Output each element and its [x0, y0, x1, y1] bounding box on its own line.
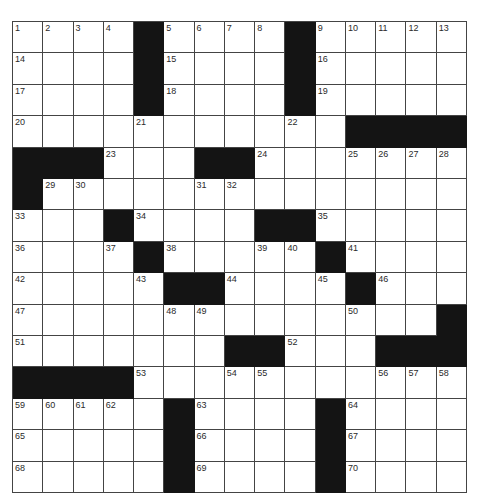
- grid-cell[interactable]: [285, 273, 315, 304]
- grid-cell[interactable]: 26: [376, 148, 406, 179]
- grid-cell[interactable]: [164, 367, 194, 398]
- grid-cell[interactable]: 67: [346, 430, 376, 461]
- grid-cell[interactable]: [104, 85, 134, 116]
- grid-cell[interactable]: 9: [316, 22, 346, 53]
- grid-cell[interactable]: [43, 462, 73, 493]
- grid-cell[interactable]: 56: [376, 367, 406, 398]
- grid-cell[interactable]: [134, 336, 164, 367]
- grid-cell[interactable]: 6: [195, 22, 225, 53]
- grid-cell[interactable]: [74, 116, 104, 147]
- grid-cell[interactable]: 36: [13, 242, 43, 273]
- grid-cell[interactable]: 7: [225, 22, 255, 53]
- grid-cell[interactable]: [406, 53, 436, 84]
- grid-cell[interactable]: [104, 462, 134, 493]
- grid-cell[interactable]: [255, 430, 285, 461]
- grid-cell[interactable]: [225, 462, 255, 493]
- grid-cell[interactable]: 64: [346, 399, 376, 430]
- grid-cell[interactable]: [437, 430, 467, 461]
- grid-cell[interactable]: 5: [164, 22, 194, 53]
- grid-cell[interactable]: 33: [13, 210, 43, 241]
- grid-cell[interactable]: 49: [195, 305, 225, 336]
- grid-cell[interactable]: [195, 242, 225, 273]
- grid-cell[interactable]: 62: [104, 399, 134, 430]
- grid-cell[interactable]: [74, 53, 104, 84]
- grid-cell[interactable]: [164, 179, 194, 210]
- grid-cell[interactable]: [437, 210, 467, 241]
- grid-cell[interactable]: [134, 399, 164, 430]
- grid-cell[interactable]: 8: [255, 22, 285, 53]
- grid-cell[interactable]: [104, 179, 134, 210]
- grid-cell[interactable]: [255, 399, 285, 430]
- grid-cell[interactable]: 28: [437, 148, 467, 179]
- grid-cell[interactable]: [285, 462, 315, 493]
- grid-cell[interactable]: [255, 53, 285, 84]
- grid-cell[interactable]: 50: [346, 305, 376, 336]
- grid-cell[interactable]: 14: [13, 53, 43, 84]
- grid-cell[interactable]: [437, 242, 467, 273]
- grid-cell[interactable]: [134, 148, 164, 179]
- grid-cell[interactable]: 42: [13, 273, 43, 304]
- grid-cell[interactable]: [195, 336, 225, 367]
- grid-cell[interactable]: 2: [43, 22, 73, 53]
- grid-cell[interactable]: [195, 85, 225, 116]
- grid-cell[interactable]: [346, 53, 376, 84]
- grid-cell[interactable]: [316, 116, 346, 147]
- grid-cell[interactable]: [285, 430, 315, 461]
- grid-cell[interactable]: 68: [13, 462, 43, 493]
- grid-cell[interactable]: [406, 242, 436, 273]
- grid-cell[interactable]: [74, 242, 104, 273]
- grid-cell[interactable]: 63: [195, 399, 225, 430]
- grid-cell[interactable]: 43: [134, 273, 164, 304]
- grid-cell[interactable]: 32: [225, 179, 255, 210]
- grid-cell[interactable]: [43, 336, 73, 367]
- grid-cell[interactable]: [437, 462, 467, 493]
- grid-cell[interactable]: [74, 210, 104, 241]
- grid-cell[interactable]: [285, 179, 315, 210]
- grid-cell[interactable]: [376, 305, 406, 336]
- grid-cell[interactable]: [255, 305, 285, 336]
- grid-cell[interactable]: [316, 148, 346, 179]
- grid-cell[interactable]: [225, 305, 255, 336]
- grid-cell[interactable]: [195, 210, 225, 241]
- grid-cell[interactable]: 17: [13, 85, 43, 116]
- grid-cell[interactable]: [164, 336, 194, 367]
- grid-cell[interactable]: [406, 85, 436, 116]
- grid-cell[interactable]: [43, 210, 73, 241]
- grid-cell[interactable]: [406, 462, 436, 493]
- grid-cell[interactable]: 51: [13, 336, 43, 367]
- grid-cell[interactable]: [134, 430, 164, 461]
- grid-cell[interactable]: 60: [43, 399, 73, 430]
- grid-cell[interactable]: [43, 116, 73, 147]
- grid-cell[interactable]: [43, 305, 73, 336]
- grid-cell[interactable]: 1: [13, 22, 43, 53]
- grid-cell[interactable]: [225, 53, 255, 84]
- grid-cell[interactable]: [376, 53, 406, 84]
- grid-cell[interactable]: [104, 53, 134, 84]
- grid-cell[interactable]: [406, 305, 436, 336]
- grid-cell[interactable]: 48: [164, 305, 194, 336]
- grid-cell[interactable]: [195, 53, 225, 84]
- grid-cell[interactable]: [376, 462, 406, 493]
- grid-cell[interactable]: 47: [13, 305, 43, 336]
- grid-cell[interactable]: [316, 179, 346, 210]
- grid-cell[interactable]: [255, 462, 285, 493]
- grid-cell[interactable]: 15: [164, 53, 194, 84]
- grid-cell[interactable]: [406, 430, 436, 461]
- grid-cell[interactable]: [376, 179, 406, 210]
- grid-cell[interactable]: [74, 273, 104, 304]
- grid-cell[interactable]: 61: [74, 399, 104, 430]
- grid-cell[interactable]: [376, 242, 406, 273]
- grid-cell[interactable]: [346, 179, 376, 210]
- grid-cell[interactable]: 65: [13, 430, 43, 461]
- grid-cell[interactable]: 55: [255, 367, 285, 398]
- grid-cell[interactable]: [74, 430, 104, 461]
- grid-cell[interactable]: 69: [195, 462, 225, 493]
- grid-cell[interactable]: 12: [406, 22, 436, 53]
- grid-cell[interactable]: [225, 242, 255, 273]
- grid-cell[interactable]: [376, 210, 406, 241]
- grid-cell[interactable]: [255, 85, 285, 116]
- grid-cell[interactable]: 70: [346, 462, 376, 493]
- grid-cell[interactable]: [376, 399, 406, 430]
- grid-cell[interactable]: 10: [346, 22, 376, 53]
- grid-cell[interactable]: [134, 305, 164, 336]
